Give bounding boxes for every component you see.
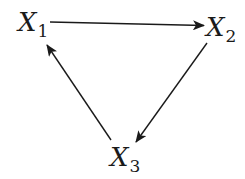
node-x2-letter: X <box>206 12 225 42</box>
node-x3: X3 <box>110 144 140 170</box>
node-x1: X1 <box>18 9 48 35</box>
node-x3-letter: X <box>110 142 129 172</box>
edge-x1-to-x2 <box>50 22 204 26</box>
node-x2: X2 <box>206 14 236 40</box>
edge-x2-to-x3 <box>136 43 207 142</box>
node-x2-subscript: 2 <box>226 26 237 46</box>
edge-x3-to-x1 <box>47 45 111 140</box>
node-x1-subscript: 1 <box>38 21 49 41</box>
cycle-diagram: X1 X2 X3 <box>0 0 245 179</box>
node-x3-subscript: 3 <box>130 156 141 176</box>
node-x1-letter: X <box>18 7 37 37</box>
